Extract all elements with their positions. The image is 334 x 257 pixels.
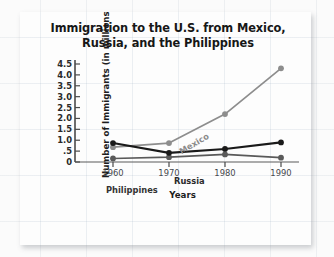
y-tick-label: 0 <box>66 157 72 167</box>
series-label-russia: Russia <box>174 176 205 186</box>
data-point <box>166 140 172 146</box>
data-point <box>222 111 228 117</box>
y-tick-label: 1.5 <box>57 124 72 134</box>
data-point <box>222 151 228 157</box>
plot-area: Number of Immigrants (in millions) Years… <box>75 62 301 222</box>
y-tick-label: 1.0 <box>57 135 72 145</box>
y-tick-label: 2.5 <box>57 103 72 113</box>
y-tick-label: 4.5 <box>57 59 72 69</box>
chart-title: Immigration to the U.S. from Mexico, Rus… <box>48 21 288 50</box>
data-point <box>110 140 116 146</box>
data-point <box>278 155 284 161</box>
y-tick-label: 4.0 <box>57 70 72 80</box>
series-line <box>113 154 281 158</box>
y-tick-label: 3.5 <box>57 81 72 91</box>
y-tick-label: 3.0 <box>57 92 72 102</box>
data-point <box>278 65 284 71</box>
chart-card: Immigration to the U.S. from Mexico, Rus… <box>20 12 311 245</box>
series-philippines <box>110 151 284 161</box>
chart-page: Immigration to the U.S. from Mexico, Rus… <box>0 0 334 257</box>
chart-title-line-2: Russia, and the Philippines <box>48 36 288 51</box>
data-point <box>166 150 172 156</box>
data-point <box>222 146 228 152</box>
data-point <box>110 156 116 162</box>
series-label-philippines: Philippines <box>106 185 158 195</box>
chart-title-line-1: Immigration to the U.S. from Mexico, <box>48 21 288 36</box>
data-point <box>278 140 284 146</box>
y-tick-label: 2.0 <box>57 113 72 123</box>
y-tick-label: .5 <box>63 146 72 156</box>
